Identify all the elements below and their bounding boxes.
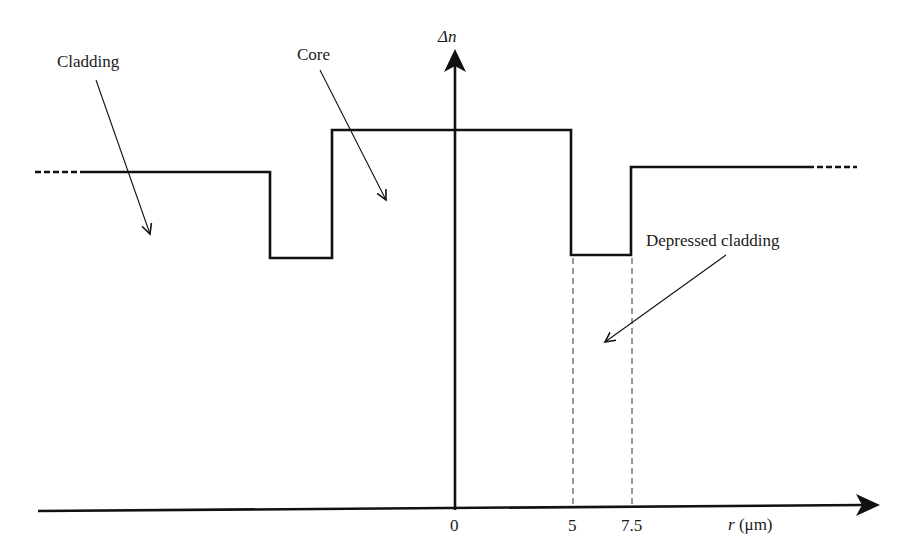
y-axis xyxy=(444,49,466,510)
x-axis-label-var: r xyxy=(728,515,735,534)
x-tick-5: 5 xyxy=(568,517,577,534)
x-axis-label-unit: (μm) xyxy=(739,515,773,534)
radius-guides xyxy=(573,258,632,506)
y-axis-label: Δn xyxy=(438,28,456,45)
y-axis-label-text: Δn xyxy=(438,27,456,46)
x-tick-7-5: 7.5 xyxy=(621,517,642,534)
core-label: Core xyxy=(297,46,330,63)
cladding-arrow-icon xyxy=(96,80,150,234)
index-profile-diagram: Δn Cladding Core Depressed cladding 0 5 … xyxy=(0,0,917,552)
depressed-cladding-arrow-icon xyxy=(605,255,726,342)
core-arrow-icon xyxy=(320,70,386,200)
diagram-canvas xyxy=(0,0,917,552)
cladding-label: Cladding xyxy=(57,53,119,70)
depressed-cladding-label: Depressed cladding xyxy=(646,232,780,249)
x-axis-label: r (μm) xyxy=(728,516,773,533)
x-axis xyxy=(38,494,880,516)
x-tick-0: 0 xyxy=(450,517,459,534)
